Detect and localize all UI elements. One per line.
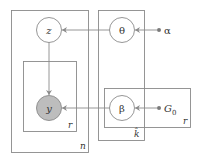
node-y: y: [37, 96, 62, 121]
plate-r-left-label: r: [68, 120, 73, 130]
alpha-label: α: [164, 25, 171, 36]
graphical-model-diagram: z y θ β α G0 n r k̂ r: [0, 0, 200, 161]
hyper-g0: G0: [157, 103, 176, 117]
node-beta-label: β: [119, 103, 125, 114]
g0-label: G0: [164, 103, 176, 117]
node-theta: θ: [110, 18, 135, 43]
plate-k-label: k̂: [134, 127, 139, 139]
node-y-label: y: [45, 103, 52, 114]
g0-dot-icon: [157, 106, 161, 110]
plate-r-right-label: r: [183, 116, 188, 126]
node-z: z: [37, 18, 62, 43]
node-z-label: z: [45, 25, 52, 36]
node-beta: β: [110, 96, 135, 121]
alpha-dot-icon: [157, 28, 161, 32]
plate-n-label: n: [80, 141, 86, 151]
node-theta-label: θ: [119, 25, 125, 36]
hyper-alpha: α: [157, 25, 171, 36]
